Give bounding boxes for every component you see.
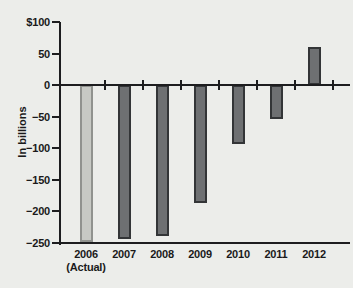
- bar-2007: [118, 85, 131, 239]
- zero-line-tick: [104, 80, 106, 90]
- zero-line-tick: [142, 80, 144, 90]
- bar-2011: [270, 85, 283, 119]
- y-tick-label: −150: [10, 174, 50, 186]
- zero-line-tick: [332, 80, 334, 90]
- baseline: [59, 242, 350, 244]
- y-tick-label: −200: [10, 205, 50, 217]
- chart-plot: 2006(Actual)200720082009201020112012$100…: [0, 0, 353, 288]
- zero-line-tick: [180, 80, 182, 90]
- zero-line: [59, 84, 350, 86]
- y-tick-label: 50: [10, 48, 50, 60]
- zero-line-tick: [256, 80, 258, 90]
- budget-deficit-bar-chart: In billions 2006(Actual)2007200820092010…: [0, 0, 353, 288]
- y-tick-label: $100: [10, 16, 50, 28]
- y-tick-label: −250: [10, 237, 50, 249]
- y-tick: [52, 116, 60, 118]
- bar-2008: [156, 85, 169, 236]
- y-tick: [52, 21, 60, 23]
- bar-2009: [194, 85, 207, 203]
- y-tick-label: −100: [10, 142, 50, 154]
- x-tick-label-2012: 2012: [284, 248, 344, 260]
- bar-2006: [80, 85, 93, 242]
- y-tick: [52, 53, 60, 55]
- y-tick-label: −50: [10, 111, 50, 123]
- bar-2012: [308, 47, 321, 86]
- y-tick-label: 0: [10, 79, 50, 91]
- zero-line-tick: [294, 80, 296, 90]
- x-tick-sublabel-2006: (Actual): [56, 261, 116, 273]
- zero-line-tick: [218, 80, 220, 90]
- y-tick: [52, 210, 60, 212]
- bar-2010: [232, 85, 245, 144]
- y-tick: [52, 147, 60, 149]
- y-tick: [52, 179, 60, 181]
